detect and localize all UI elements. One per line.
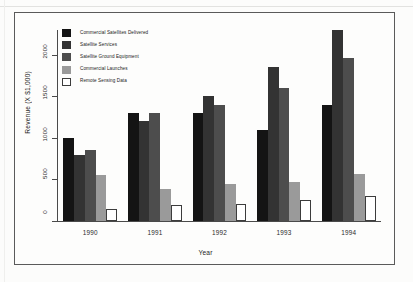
bar (214, 105, 225, 221)
bar (354, 174, 365, 221)
x-axis-group-label: 1993 (249, 229, 319, 236)
legend-label: Commercial Satellites Delivered (80, 30, 148, 35)
y-axis-tick (52, 221, 57, 222)
legend-label: Remote Sensing Data (80, 78, 127, 83)
bar (300, 200, 311, 221)
legend-swatch (62, 66, 71, 74)
x-axis-group-label: 1992 (185, 229, 255, 236)
legend-item: Commercial Launches (62, 65, 222, 77)
legend-swatch (62, 53, 71, 61)
bar-group (322, 30, 376, 221)
bar (365, 196, 376, 221)
legend-label: Satellite Services (80, 42, 117, 47)
bar (279, 88, 290, 221)
bar (193, 113, 204, 221)
bar (289, 182, 300, 221)
x-axis-group-label: 1994 (314, 229, 384, 236)
legend-label: Satellite Ground Equipment (80, 54, 139, 59)
legend-item: Remote Sensing Data (62, 77, 222, 89)
x-axis-group-label: 1990 (55, 229, 125, 236)
bar (128, 113, 139, 221)
bar (106, 209, 117, 221)
chart-legend: Commercial Satellites DeliveredSatellite… (62, 28, 222, 89)
bar (203, 96, 214, 221)
bar (268, 67, 279, 221)
x-axis-group-label: 1991 (120, 229, 190, 236)
bar (74, 155, 85, 221)
bar (257, 130, 268, 221)
bar (171, 205, 182, 221)
x-axis-title: Year (15, 249, 396, 256)
scan-edge-top (0, 6, 413, 7)
bar (63, 138, 74, 221)
bar (322, 105, 333, 221)
plot-area: 0500100015002000 Revenue (X $1,000) 1990… (15, 13, 396, 266)
legend-swatch (62, 41, 71, 49)
bar (96, 175, 107, 222)
legend-swatch (62, 29, 71, 37)
chart-frame: 0500100015002000 Revenue (X $1,000) 1990… (14, 12, 395, 265)
scan-edge-left (4, 0, 5, 282)
bar (332, 30, 343, 221)
legend-item: Commercial Satellites Delivered (62, 28, 222, 40)
x-axis-line (57, 221, 381, 222)
bar (139, 121, 150, 221)
bar (343, 58, 354, 221)
legend-item: Satellite Ground Equipment (62, 52, 222, 64)
bar-group (257, 30, 311, 221)
legend-item: Satellite Services (62, 40, 222, 52)
bar (85, 150, 96, 221)
legend-label: Commercial Launches (80, 66, 128, 71)
bar (160, 189, 171, 221)
bar (225, 184, 236, 221)
bar (149, 113, 160, 221)
bar (236, 204, 247, 221)
legend-swatch (62, 78, 71, 86)
